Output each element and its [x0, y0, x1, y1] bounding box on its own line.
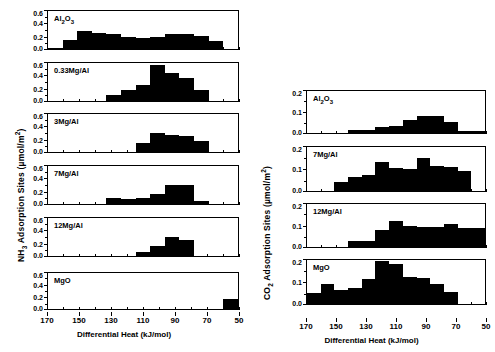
y-tick-label: 0.1 [292, 222, 302, 229]
bar [444, 224, 458, 247]
x-inside-tick [426, 131, 427, 134]
y-ticks-nh3-al2o3: 0.60.40.20.0 [17, 10, 47, 50]
bar [417, 116, 431, 133]
panel-co2-al2o3: Al2O3 [306, 90, 486, 134]
y-tick-label: 0.6 [33, 165, 43, 172]
bar [121, 199, 136, 204]
y-tick-mark [44, 192, 48, 193]
bar [375, 127, 389, 133]
x-tick-label: 110 [390, 322, 403, 331]
y-tick-label: 0.2 [292, 259, 302, 266]
x-inside-tick [306, 302, 307, 305]
y-tick-mark [44, 297, 48, 298]
x-inside-tick [47, 99, 48, 102]
panel-nh3-3mgal: 3Mg/Al [47, 113, 239, 153]
x-tick-label: 90 [171, 316, 180, 325]
x-inside-tick [471, 189, 472, 192]
plot-area-nh3-mgo [47, 272, 239, 310]
bar-series-nh3-al2o3 [48, 11, 238, 49]
x-inside-tick [486, 302, 487, 305]
x-inside-tick [223, 150, 224, 153]
x-inside-tick [336, 245, 337, 248]
bar [375, 230, 389, 247]
y-ticks-nh3-mgo: 0.60.40.20.0 [17, 272, 47, 310]
y-minor-tick [45, 82, 47, 83]
x-tick-mark [426, 318, 427, 322]
x-inside-tick [396, 189, 397, 192]
x-inside-tick [471, 302, 472, 305]
x-inside-tick [79, 150, 80, 153]
x-inside-tick [441, 245, 442, 248]
bar [458, 131, 472, 133]
co2-x-axis-title: Differential Heat (kJ/mol) [248, 336, 495, 345]
y-tick-label: 0.0 [33, 45, 43, 52]
y-tick-mark [44, 126, 48, 127]
x-inside-tick [321, 189, 322, 192]
x-inside-tick [239, 202, 240, 205]
x-tick-mark [396, 318, 397, 322]
y-tick-mark [44, 62, 48, 63]
x-inside-tick [63, 254, 64, 257]
x-tick-mark [143, 312, 144, 316]
bar [471, 228, 485, 247]
y-minor-tick [45, 17, 47, 18]
x-inside-tick [175, 254, 176, 257]
panel-label-nh3-12mgal: 12Mg/Al [54, 221, 83, 230]
bar [430, 166, 444, 191]
y-tick-label: 0.0 [33, 252, 43, 259]
x-inside-tick [63, 307, 64, 310]
x-inside-tick [47, 47, 48, 50]
y-minor-tick [45, 278, 47, 279]
x-ticks: 170150130110907050 [47, 312, 239, 330]
bar [106, 95, 121, 101]
y-tick-label: 0.0 [33, 97, 43, 104]
x-inside-tick [441, 131, 442, 134]
y-tick-label: 0.6 [33, 217, 43, 224]
y-tick-label: 0.4 [33, 20, 43, 27]
x-inside-tick [127, 47, 128, 50]
y-tick-label: 0.1 [292, 109, 302, 116]
y-tick-mark [44, 230, 48, 231]
y-tick-label: 0.2 [33, 136, 43, 143]
y-tick-label: 0.2 [33, 85, 43, 92]
x-inside-tick [111, 307, 112, 310]
bar [150, 194, 165, 204]
x-inside-tick [63, 150, 64, 153]
y-tick-label: 0.0 [292, 300, 302, 307]
x-inside-tick [79, 202, 80, 205]
x-inside-tick [426, 189, 427, 192]
y-tick-mark [44, 165, 48, 166]
panel-label-co2-7mgal: 7Mg/Al [313, 150, 338, 159]
x-inside-tick [381, 245, 382, 248]
x-inside-tick [411, 245, 412, 248]
x-inside-tick [239, 150, 240, 153]
x-inside-tick [223, 307, 224, 310]
y-tick-label: 0.0 [292, 129, 302, 136]
x-inside-tick [411, 131, 412, 134]
bar [362, 175, 376, 192]
y-minor-tick [45, 224, 47, 225]
x-inside-tick [223, 47, 224, 50]
panel-label-nh3-mgo: MgO [54, 276, 71, 285]
bar [403, 226, 417, 248]
y-ticks-co2-7mgal: 0.20.10.0 [276, 146, 306, 192]
y-minor-tick [304, 123, 306, 124]
y-minor-tick [45, 304, 47, 305]
x-tick-mark [486, 318, 487, 322]
y-minor-tick [45, 120, 47, 121]
y-tick-label: 0.6 [33, 62, 43, 69]
panel-co2-12mgal: 12Mg/Al [306, 203, 486, 248]
x-tick-label: 70 [203, 316, 212, 325]
x-inside-tick [127, 202, 128, 205]
x-inside-tick [111, 47, 112, 50]
y-tick-label: 0.0 [33, 148, 43, 155]
y-minor-tick [45, 185, 47, 186]
x-inside-tick [127, 254, 128, 257]
panel-label-nh3-033mgal: 0.33Mg/Al [54, 66, 89, 75]
y-minor-tick [304, 294, 306, 295]
y-ticks-nh3-3mgal: 0.60.40.20.0 [17, 113, 47, 153]
x-inside-tick [191, 150, 192, 153]
x-tick-label: 90 [422, 322, 431, 331]
panel-label-co2-al2o3: Al2O3 [313, 94, 333, 105]
x-inside-tick [351, 245, 352, 248]
